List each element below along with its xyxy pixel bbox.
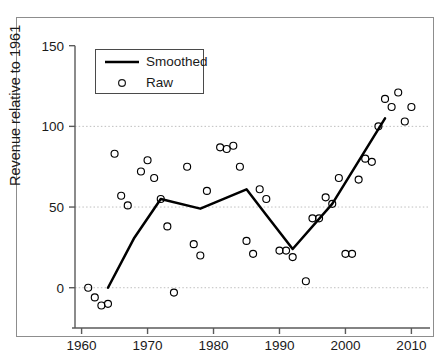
chart-plot-area — [17, 18, 432, 335]
gridlines — [75, 126, 428, 287]
x-axis-tick-label: 1970 — [133, 338, 163, 353]
y-axis-tick-label: 100 — [17, 119, 64, 134]
y-axis-tick-label: 50 — [17, 200, 64, 215]
x-axis-tick-label: 2000 — [330, 338, 360, 353]
x-axis-tick-label: 1980 — [198, 338, 228, 353]
series-raw-points — [85, 89, 415, 309]
chart-legend: Smoothed Raw — [95, 49, 204, 94]
legend-entry-raw: Raw — [96, 72, 203, 94]
legend-label-raw: Raw — [146, 72, 173, 94]
x-axis-tick-label: 1960 — [67, 338, 97, 353]
y-axis-tick-label: 150 — [17, 38, 64, 53]
legend-entry-smoothed: Smoothed — [96, 51, 203, 73]
legend-label-smoothed: Smoothed — [146, 51, 208, 73]
legend-line-swatch — [103, 51, 141, 73]
chart-frame: Revenue relative to 1961 1960 1970 1980 … — [16, 17, 434, 337]
x-axis-tick-label: 2010 — [396, 338, 426, 353]
y-axis-tick-label: 0 — [17, 280, 64, 295]
x-axis-tick-label: 1990 — [264, 338, 294, 353]
series-smoothed-line — [108, 118, 385, 287]
legend-circle-swatch — [103, 72, 141, 94]
figure-container: Revenue relative to 1961 1960 1970 1980 … — [0, 0, 448, 363]
